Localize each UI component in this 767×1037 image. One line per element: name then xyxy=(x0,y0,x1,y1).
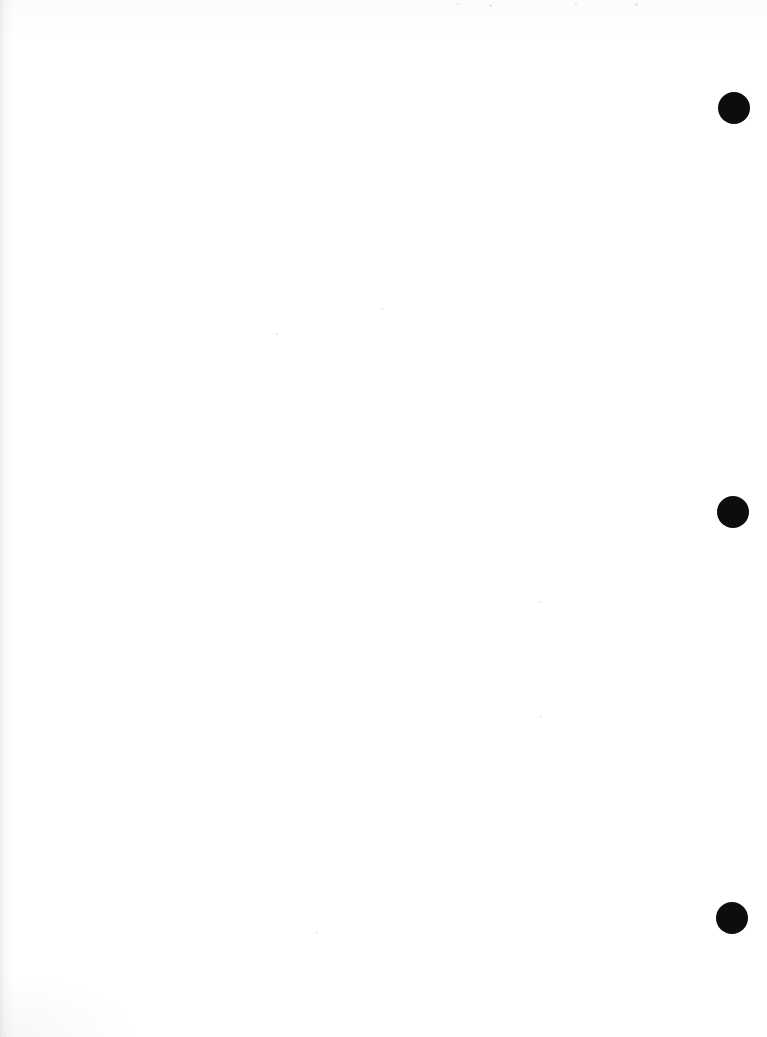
register-mark-bottom xyxy=(716,902,748,934)
scan-speck xyxy=(276,333,278,335)
scanned-page xyxy=(0,0,767,1037)
scan-speck xyxy=(489,4,492,7)
scan-speck xyxy=(457,3,459,5)
register-mark-middle xyxy=(717,496,749,528)
left-edge-scan-shadow xyxy=(0,0,13,1037)
scan-speck xyxy=(316,932,318,934)
register-mark-top xyxy=(718,92,750,124)
top-edge-scan-haze xyxy=(0,0,767,34)
scan-speck xyxy=(575,3,577,5)
scan-speck xyxy=(635,3,638,6)
scan-speck xyxy=(381,308,383,310)
left-edge-scan-streaks xyxy=(0,0,11,1037)
bottom-left-scan-haze xyxy=(0,977,130,1037)
scan-speck xyxy=(540,716,542,718)
scan-speck xyxy=(539,601,541,603)
